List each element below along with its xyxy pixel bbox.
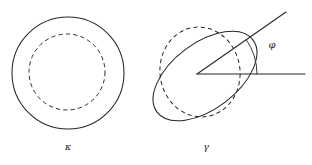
gamma-panel: φ γ (137, 12, 305, 152)
figure-container: κ φ γ (0, 0, 312, 165)
tilted-ellipse (137, 14, 273, 139)
kappa-label: κ (64, 141, 72, 152)
kappa-panel: κ (12, 17, 124, 152)
phi-label: φ (268, 39, 275, 50)
inner-circle (29, 34, 105, 110)
gamma-label: γ (203, 141, 209, 152)
diagram-canvas: κ φ γ (0, 0, 312, 165)
